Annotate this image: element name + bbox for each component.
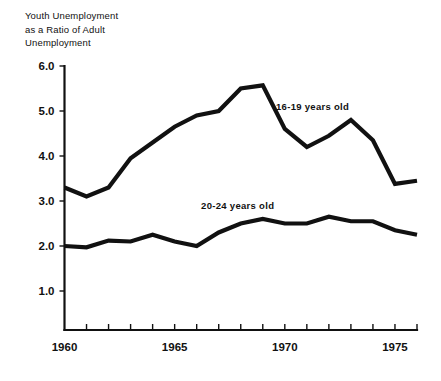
x-tick-label: 1960	[52, 341, 78, 353]
y-tick-label: 5.0	[39, 105, 55, 117]
data-line-16-19-years-old	[65, 85, 418, 196]
x-tick-label: 1975	[382, 341, 408, 353]
series-annotations: 16-19 years old20-24 years old	[201, 101, 349, 211]
x-tick-label: 1970	[272, 341, 298, 353]
y-tick-label: 3.0	[39, 195, 55, 207]
y-axis: 1.02.03.04.05.06.0	[39, 60, 65, 330]
x-tick-label: 1965	[162, 341, 188, 353]
series-annotation: 16-19 years old	[276, 101, 349, 112]
chart-page: Youth Unemployment as a Ratio of Adult U…	[0, 0, 441, 381]
y-tick-label: 2.0	[39, 240, 55, 252]
y-tick-label: 4.0	[39, 150, 55, 162]
data-series-group	[65, 85, 418, 247]
y-tick-label: 6.0	[39, 60, 55, 72]
line-chart-plot: 1.02.03.04.05.06.0 1960196519701975 16-1…	[0, 0, 441, 381]
data-line-20-24-years-old	[65, 217, 418, 248]
series-annotation: 20-24 years old	[201, 200, 274, 211]
x-axis: 1960196519701975	[52, 324, 417, 353]
y-tick-label: 1.0	[39, 285, 55, 297]
